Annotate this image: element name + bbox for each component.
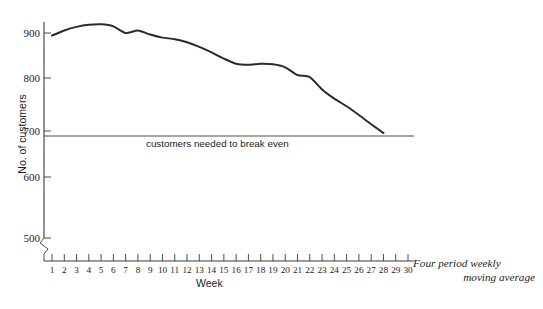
x-tick-label: 5	[99, 265, 104, 275]
x-tick-label: 12	[182, 265, 192, 275]
x-tick-label: 17	[244, 265, 254, 275]
x-tick-label: 6	[111, 265, 116, 275]
x-tick-label: 15	[219, 265, 229, 275]
x-axis-title: Week	[196, 277, 223, 289]
y-axis-break-icon	[40, 238, 48, 261]
x-tick-label: 24	[330, 265, 340, 275]
x-tick-labels: 1234567891011121314151617181920212223242…	[50, 265, 413, 275]
x-tick-label: 18	[256, 265, 266, 275]
y-tick-label-500: 500	[24, 232, 41, 244]
break-even-label: customers needed to break even	[146, 138, 289, 149]
x-tick-label: 8	[136, 265, 141, 275]
x-tick-label: 27	[367, 265, 377, 275]
x-tick-label: 2	[62, 265, 67, 275]
x-tick-label: 26	[354, 265, 364, 275]
moving-average-line	[52, 24, 383, 133]
x-tick-label: 22	[305, 265, 315, 275]
x-tick-label: 23	[317, 265, 327, 275]
x-tick-label: 29	[391, 265, 401, 275]
x-tick-label: 19	[268, 265, 278, 275]
x-tick-label: 21	[293, 265, 303, 275]
chart-container: 900 800 700 600 500 12345678910111213141…	[0, 0, 543, 309]
x-tick-label: 13	[195, 265, 205, 275]
x-tick-label: 7	[123, 265, 128, 275]
x-tick-label: 16	[232, 265, 242, 275]
x-tick-label: 9	[148, 265, 153, 275]
series-note-line-2: moving average	[411, 270, 537, 284]
y-tick-marks	[44, 33, 51, 238]
series-note-line-1: Four period weekly	[411, 256, 537, 270]
series-note: Four period weekly moving average	[411, 256, 537, 285]
x-tick-label: 4	[87, 265, 92, 275]
x-tick-label: 14	[207, 265, 217, 275]
x-tick-marks	[52, 254, 408, 261]
x-tick-label: 20	[281, 265, 291, 275]
x-tick-label: 1	[50, 265, 55, 275]
x-tick-label: 3	[74, 265, 79, 275]
x-tick-label: 11	[170, 265, 179, 275]
y-axis-title: No. of customers	[16, 79, 28, 189]
x-tick-label: 25	[342, 265, 352, 275]
x-tick-label: 28	[379, 265, 389, 275]
x-tick-label: 10	[158, 265, 168, 275]
y-tick-label-900: 900	[24, 27, 41, 39]
